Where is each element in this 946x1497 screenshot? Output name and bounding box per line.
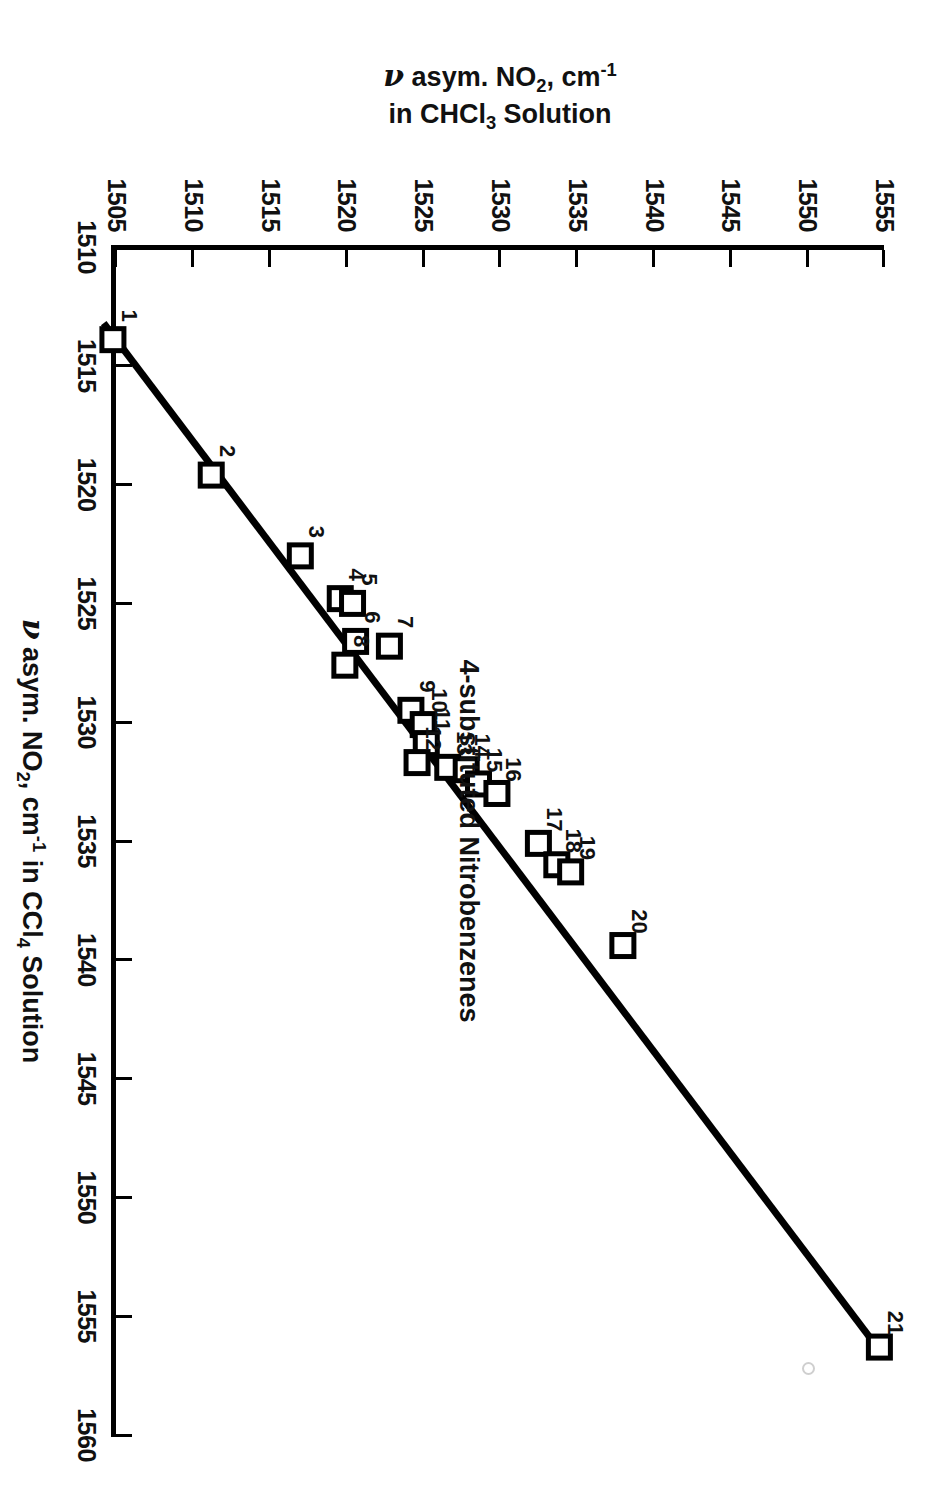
data-point-marker bbox=[329, 588, 351, 610]
x-tick bbox=[115, 958, 132, 961]
data-point-marker bbox=[612, 935, 634, 957]
data-point-label: 5 bbox=[356, 573, 382, 585]
x-tick-label: 1535 bbox=[72, 814, 101, 868]
y-tick bbox=[345, 250, 348, 267]
y-tick-label: 1510 bbox=[178, 178, 207, 232]
x-title-end: Solution bbox=[17, 948, 47, 1063]
data-point-marker bbox=[200, 464, 222, 486]
x-tick-label: 1525 bbox=[72, 577, 101, 631]
data-point-label: 2 bbox=[214, 445, 240, 457]
x-tick-label: 1540 bbox=[72, 933, 101, 987]
chart-annotation: 4-substituted Nitrobenzenes bbox=[453, 659, 484, 1022]
y-tick-label: 1525 bbox=[409, 178, 438, 232]
y-tick bbox=[883, 250, 886, 267]
data-point-marker bbox=[560, 861, 582, 883]
data-point-label: 7 bbox=[392, 616, 418, 628]
x-title-post: in CCl bbox=[17, 852, 47, 938]
data-point-marker bbox=[527, 832, 549, 854]
y-tick bbox=[499, 250, 502, 267]
x-tick-label: 1530 bbox=[72, 695, 101, 749]
x-tick bbox=[115, 602, 132, 605]
x-title-sub2: 4 bbox=[13, 938, 34, 948]
x-title-mid: , cm bbox=[17, 782, 47, 836]
fit-line bbox=[104, 323, 883, 1354]
y-tick-label: 1505 bbox=[102, 178, 131, 232]
data-point-label: 1 bbox=[116, 310, 142, 322]
y-tick bbox=[268, 250, 271, 267]
figure: 1510151515201525153015351540154515501555… bbox=[0, 0, 946, 1497]
x-tick-label: 1515 bbox=[72, 339, 101, 393]
x-tick-label: 1510 bbox=[72, 220, 101, 274]
x-tick bbox=[115, 1196, 132, 1199]
data-point-marker bbox=[400, 699, 422, 721]
y-tick bbox=[575, 250, 578, 267]
data-point-label: 8 bbox=[348, 635, 374, 647]
y-tick-label: 1540 bbox=[639, 178, 668, 232]
y-title2-post: Solution bbox=[496, 99, 611, 129]
y-tick bbox=[729, 250, 732, 267]
y-tick-label: 1555 bbox=[870, 178, 899, 232]
y-tick-label: 1520 bbox=[332, 178, 361, 232]
x-tick bbox=[115, 1315, 132, 1318]
y-tick bbox=[191, 250, 194, 267]
y-tick-label: 1550 bbox=[793, 178, 822, 232]
data-point-marker bbox=[406, 752, 428, 774]
y-tick bbox=[806, 250, 809, 267]
nu-glyph-y: ν bbox=[383, 58, 404, 93]
y-axis-title: ν asym. NO2, cm-1 in CHCl3 Solution bbox=[240, 57, 760, 135]
data-point-label: 20 bbox=[626, 909, 652, 933]
data-point-label: 6 bbox=[359, 611, 385, 623]
y-title2-pre: in CHCl bbox=[388, 99, 486, 129]
y-title-pre: asym. NO bbox=[412, 62, 537, 92]
y-axis-line bbox=[111, 245, 884, 250]
data-point-label: 19 bbox=[574, 836, 600, 860]
x-tick bbox=[115, 1077, 132, 1080]
data-point-marker bbox=[378, 635, 400, 657]
y-title-sup: -1 bbox=[600, 59, 616, 80]
y-tick-label: 1530 bbox=[486, 178, 515, 232]
y-tick-label: 1535 bbox=[562, 178, 591, 232]
y-axis-title-line2: in CHCl3 Solution bbox=[240, 98, 760, 135]
data-point-marker bbox=[334, 654, 356, 676]
x-tick-label: 1555 bbox=[72, 1289, 101, 1343]
figure-rotation-wrapper: 1510151515201525153015351540154515501555… bbox=[0, 0, 946, 1497]
data-point-marker bbox=[546, 854, 568, 876]
x-tick-label: 1520 bbox=[72, 458, 101, 512]
data-markers bbox=[102, 329, 890, 1358]
x-title-pre: asym. NO bbox=[17, 647, 47, 772]
x-tick-label: 1545 bbox=[72, 1052, 101, 1106]
y-tick bbox=[422, 250, 425, 267]
y-title-mid: , cm bbox=[546, 62, 600, 92]
x-title-sub: 2 bbox=[13, 772, 34, 782]
x-axis-title: ν asym. NO2, cm-1 in CCl4 Solution bbox=[12, 619, 51, 1064]
data-point-marker bbox=[289, 545, 311, 567]
y-tick bbox=[652, 250, 655, 267]
data-point-label: 12 bbox=[420, 726, 446, 750]
data-point-label: 16 bbox=[500, 757, 526, 781]
data-point-label: 3 bbox=[303, 526, 329, 538]
x-tick bbox=[115, 364, 132, 367]
y-axis-title-line1: ν asym. NO2, cm-1 bbox=[240, 57, 760, 98]
nu-glyph-x: ν bbox=[16, 619, 51, 640]
data-point-marker bbox=[486, 782, 508, 804]
x-tick bbox=[115, 1434, 132, 1437]
y-tick-label: 1515 bbox=[255, 178, 284, 232]
x-tick bbox=[115, 721, 132, 724]
data-point-marker bbox=[868, 1336, 890, 1358]
scan-speck bbox=[802, 1362, 815, 1375]
x-title-sup: -1 bbox=[29, 836, 50, 852]
data-point-label: 21 bbox=[882, 1311, 908, 1335]
y-title-sub: 2 bbox=[536, 75, 546, 96]
y-title2-sub: 3 bbox=[486, 112, 496, 133]
y-tick-label: 1545 bbox=[716, 178, 745, 232]
x-tick bbox=[115, 840, 132, 843]
x-tick-label: 1550 bbox=[72, 1171, 101, 1225]
y-tick bbox=[115, 250, 118, 267]
x-tick-label: 1560 bbox=[72, 1408, 101, 1462]
x-tick bbox=[115, 483, 132, 486]
x-tick bbox=[115, 246, 132, 249]
